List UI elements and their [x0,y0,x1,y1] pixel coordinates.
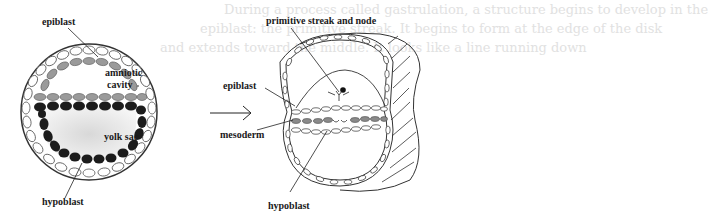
mesoderm-row [292,117,388,124]
label-hypoblast-left: hypoblast [42,196,84,207]
label-yolk-sac: yolk sac [104,131,138,142]
label-cavity: cavity [107,79,133,90]
right-embryo [257,28,420,192]
transition-arrow [210,106,251,120]
hypoblast-row [292,125,381,134]
label-hypoblast-right: hypoblast [268,200,310,211]
label-mesoderm: mesoderm [220,129,264,140]
label-primitive-streak: primitive streak and node [266,15,376,26]
label-amniotic: amniotic [105,67,142,78]
left-embryo [21,28,157,198]
epiblast-row [292,106,388,114]
label-epiblast-left: epiblast [42,16,75,27]
label-epiblast-right: epiblast [223,80,256,91]
